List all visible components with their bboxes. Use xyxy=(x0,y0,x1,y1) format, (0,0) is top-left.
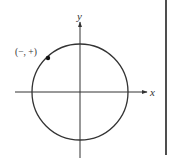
point-marker xyxy=(46,56,50,60)
x-axis-label: x xyxy=(149,86,155,98)
point-label: (−, +) xyxy=(15,47,37,58)
coordinate-diagram: x y (−, +) xyxy=(0,0,170,164)
y-axis-label: y xyxy=(76,10,82,22)
